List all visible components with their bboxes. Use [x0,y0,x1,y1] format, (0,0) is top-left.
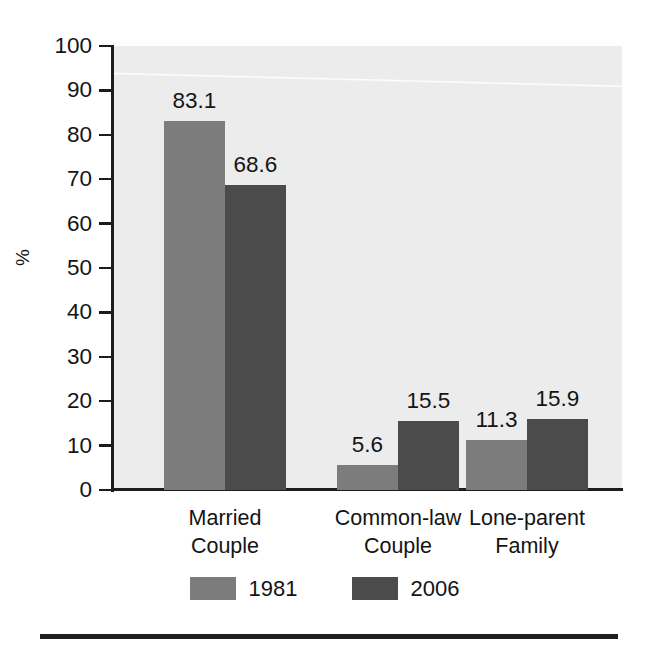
x-axis-category-label-line: Family [417,533,637,561]
y-axis-tick [99,134,112,137]
y-axis-tick [99,178,112,181]
y-axis-tick-label: 80 [22,124,92,147]
bar-2006-common-law-couple [398,421,459,490]
bar-value-label: 15.9 [513,388,602,411]
bottom-rule [40,634,618,639]
legend-item-1981[interactable]: 1981 [190,577,298,600]
bar-1981-common-law-couple [337,465,398,490]
y-axis-tick-label: 20 [22,390,92,413]
bar-2006-married-couple [225,185,286,490]
y-axis-tick-label: 10 [22,435,92,458]
y-axis-tick [99,89,112,92]
y-axis-tick-label: 0 [22,479,92,502]
bar-1981-lone-parent-family [466,440,527,490]
y-axis-tick-label: 60 [22,213,92,236]
x-axis-category-label: Lone-parentFamily [417,505,637,560]
legend-swatch-2006 [352,577,398,600]
y-axis-tick [99,222,112,225]
y-axis-tick-label: 70 [22,168,92,191]
bar-2006-lone-parent-family [527,419,588,490]
legend: 19812006 [0,577,649,600]
bar-value-label: 83.1 [150,90,239,113]
y-axis-tick [99,444,112,447]
legend-label-1981: 1981 [249,578,298,600]
bar-value-label: 68.6 [211,154,300,177]
legend-swatch-1981 [190,577,236,600]
legend-label-2006: 2006 [411,578,460,600]
x-axis-category-label-line: Lone-parent [417,505,637,533]
y-axis-tick [99,400,112,403]
bar-chart-figure: 0102030405060708090100 % 83.168.65.615.5… [0,0,649,647]
y-axis-tick [99,267,112,270]
y-axis-tick [99,45,112,48]
y-axis-tick [99,311,112,314]
y-axis-title: % [13,249,32,266]
scan-line-artifact [113,72,622,88]
y-axis-tick [99,356,112,359]
legend-item-2006[interactable]: 2006 [352,577,460,600]
y-axis-tick [99,489,112,492]
y-axis-tick-label: 40 [22,301,92,324]
y-axis-tick-label: 30 [22,346,92,369]
y-axis-tick-label: 90 [22,79,92,102]
y-axis-tick-label: 100 [22,35,92,58]
